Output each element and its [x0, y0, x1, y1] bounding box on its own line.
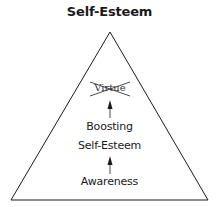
level-awareness: Awareness	[0, 175, 219, 188]
level-boosting: Boosting	[0, 120, 219, 133]
arrow-up-icon	[108, 156, 113, 174]
arrow-up-icon	[108, 100, 113, 118]
level-virtue-struck: Virtue	[91, 82, 129, 93]
level-self-esteem: Self-Esteem	[0, 139, 219, 152]
